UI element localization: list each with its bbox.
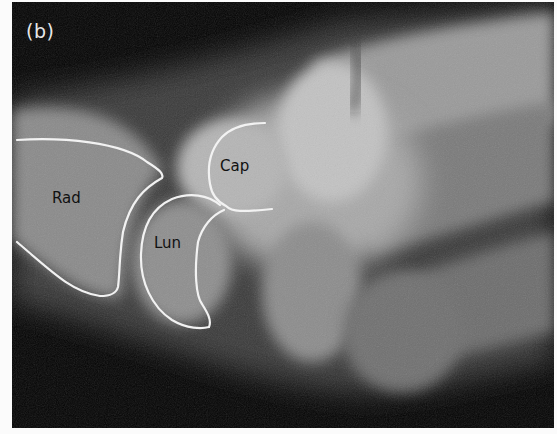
lunate-label: Lun xyxy=(154,234,181,252)
radius-outline xyxy=(17,139,162,296)
lunate-outline xyxy=(141,195,224,328)
panel-label: (b) xyxy=(26,20,54,42)
bone-outlines xyxy=(12,2,554,428)
capitate-label: Cap xyxy=(220,157,249,175)
xray-image: (b) Rad Lun Cap xyxy=(12,2,554,428)
radius-label: Rad xyxy=(52,189,81,207)
